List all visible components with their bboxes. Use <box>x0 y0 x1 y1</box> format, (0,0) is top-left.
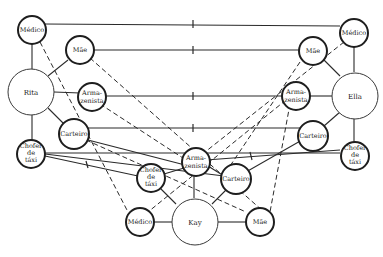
node-label: Médico <box>20 26 44 34</box>
node-label: táxi <box>145 180 157 188</box>
node-label: Carteiro <box>222 175 250 183</box>
node-label: Mãe <box>73 46 88 54</box>
node-left-carteiro[interactable]: Carteiro <box>59 119 89 149</box>
node-label: Arma- <box>185 154 206 162</box>
node-left-chofer-de-taxi[interactable]: Chofer de táxi <box>17 140 45 168</box>
node-left-medico[interactable]: Médico <box>18 16 46 44</box>
node-rita[interactable]: Rita <box>8 69 54 115</box>
node-center-carteiro[interactable]: Carteiro <box>221 164 251 194</box>
node-label: Carteiro <box>60 130 88 138</box>
node-label: Arma- <box>285 88 306 96</box>
social-network-diagram: Médico Mãe Rita Arma- zenista Carteiro C… <box>0 0 383 257</box>
node-label: Mãe <box>306 47 321 55</box>
node-ella[interactable]: Ella <box>332 73 378 119</box>
node-label: zenista <box>80 97 103 105</box>
node-label: Arma- <box>81 89 102 97</box>
node-right-chofer-de-taxi[interactable]: Chofer de táxi <box>341 142 369 170</box>
node-center-mae[interactable]: Mãe <box>246 208 274 236</box>
node-label: Médico <box>128 218 152 226</box>
node-label: zenista <box>284 96 307 104</box>
node-label: zenista <box>184 162 207 170</box>
node-label: Rita <box>24 89 39 97</box>
node-label: Mãe <box>253 218 268 226</box>
node-right-carteiro[interactable]: Carteiro <box>298 121 328 151</box>
node-label: Ella <box>348 93 362 101</box>
node-right-mae[interactable]: Mãe <box>299 37 327 65</box>
node-center-medico[interactable]: Médico <box>126 208 154 236</box>
node-kay[interactable]: Kay <box>172 199 218 245</box>
node-left-mae[interactable]: Mãe <box>66 36 94 64</box>
node-center-chofer-de-taxi[interactable]: Chofer de táxi <box>137 164 165 192</box>
node-label: Kay <box>188 219 201 227</box>
node-label: Carteiro <box>299 132 327 140</box>
node-left-armazenista[interactable]: Arma- zenista <box>78 83 106 111</box>
node-label: táxi <box>25 156 37 164</box>
node-center-armazenista[interactable]: Arma- zenista <box>182 148 210 176</box>
node-label: táxi <box>349 158 361 166</box>
node-label: Médico <box>342 29 366 37</box>
node-right-medico[interactable]: Médico <box>340 19 368 47</box>
node-right-armazenista[interactable]: Arma- zenista <box>282 82 310 110</box>
